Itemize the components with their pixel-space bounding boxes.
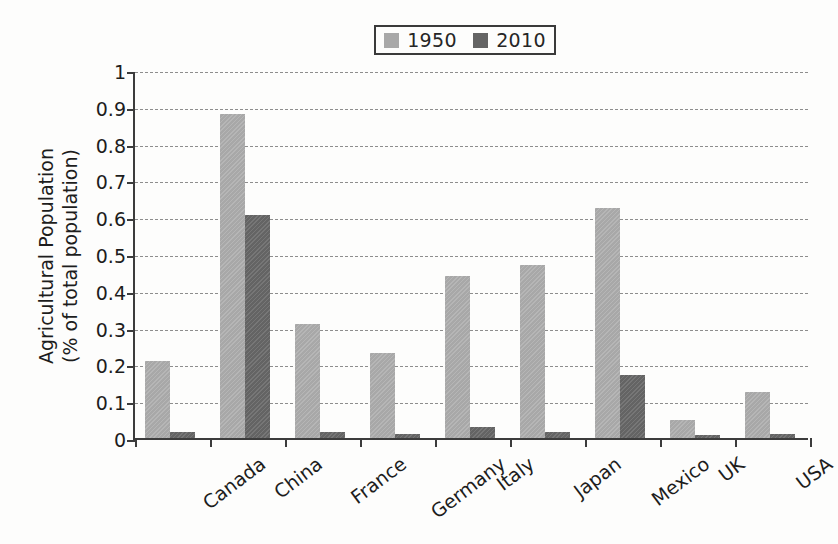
y-axis-tick: [127, 182, 135, 184]
x-axis-label-china: China: [270, 454, 325, 502]
x-axis-label-mexico: Mexico: [648, 454, 712, 509]
x-axis-tick: [660, 438, 662, 447]
y-axis-tick: [127, 440, 135, 442]
x-axis-label-usa: USA: [792, 454, 835, 493]
x-axis-label-france: France: [347, 454, 409, 507]
bar-chart: 1950 2010 Agricultural Population (% of …: [0, 0, 838, 544]
bar-uk-2010: [695, 435, 720, 438]
bar-mexico-2010: [620, 375, 645, 438]
bar-italy-1950: [445, 276, 470, 438]
bar-japan-1950: [520, 265, 545, 438]
chart-legend: 1950 2010: [374, 25, 556, 55]
y-axis-tick-label: 0.9: [96, 99, 126, 118]
y-axis-tick-label: 0.2: [96, 357, 126, 376]
x-axis-tick: [285, 438, 287, 447]
x-axis-tick: [585, 438, 587, 447]
bar-germany-2010: [395, 434, 420, 438]
gridline: [135, 72, 808, 73]
y-axis-tick: [127, 403, 135, 405]
bar-china-1950: [220, 114, 245, 438]
x-axis-label-germany: Germany: [427, 454, 508, 522]
y-axis-tick-label: 0.5: [96, 247, 126, 266]
x-axis-tick: [360, 438, 362, 447]
legend-label-1950: 1950: [407, 31, 457, 50]
x-axis-tick: [135, 438, 137, 447]
y-axis-title-line2: (% of total population): [58, 149, 82, 363]
y-axis-tick: [127, 72, 135, 74]
bar-germany-1950: [370, 353, 395, 438]
y-axis-tick-label: 0.3: [96, 320, 126, 339]
y-axis-tick-label: 0.7: [96, 173, 126, 192]
gridline: [135, 109, 808, 110]
bar-italy-2010: [470, 427, 495, 438]
legend-swatch-2010: [473, 33, 488, 48]
y-axis-tick-label: 0.4: [96, 283, 126, 302]
y-axis-tick-label: 0.8: [96, 136, 126, 155]
x-axis-tick: [735, 438, 737, 447]
x-axis-tick: [810, 438, 812, 447]
bar-canada-1950: [145, 361, 170, 438]
y-axis-tick: [127, 293, 135, 295]
y-axis-tick-label: 0: [114, 431, 126, 450]
legend-item-1950: 1950: [384, 31, 457, 50]
bar-france-1950: [295, 324, 320, 438]
plot-area: 10.90.80.70.60.50.40.30.20.10: [133, 72, 808, 440]
y-axis-tick-label: 0.1: [96, 394, 126, 413]
legend-swatch-1950: [384, 33, 399, 48]
y-axis-tick: [127, 256, 135, 258]
bar-france-2010: [320, 432, 345, 438]
y-axis-tick: [127, 109, 135, 111]
y-axis-tick-label: 0.6: [96, 210, 126, 229]
bar-mexico-1950: [595, 208, 620, 438]
bar-china-2010: [245, 215, 270, 438]
x-axis-tick: [510, 438, 512, 447]
y-axis-tick: [127, 366, 135, 368]
bar-usa-2010: [770, 434, 795, 438]
y-axis-tick: [127, 330, 135, 332]
x-axis-label-canada: Canada: [199, 454, 268, 513]
x-axis-label-uk: UK: [715, 454, 747, 485]
y-axis-tick: [127, 146, 135, 148]
y-axis-tick: [127, 219, 135, 221]
x-axis-tick: [435, 438, 437, 447]
y-axis-tick-label: 1: [114, 63, 126, 82]
bar-uk-1950: [670, 420, 695, 438]
legend-label-2010: 2010: [496, 31, 546, 50]
y-axis-title-line1: Agricultural Population: [34, 148, 58, 364]
bar-japan-2010: [545, 432, 570, 438]
x-axis-tick: [210, 438, 212, 447]
bar-usa-1950: [745, 392, 770, 438]
legend-item-2010: 2010: [473, 31, 546, 50]
bar-canada-2010: [170, 432, 195, 438]
x-axis-label-japan: Japan: [570, 454, 624, 501]
